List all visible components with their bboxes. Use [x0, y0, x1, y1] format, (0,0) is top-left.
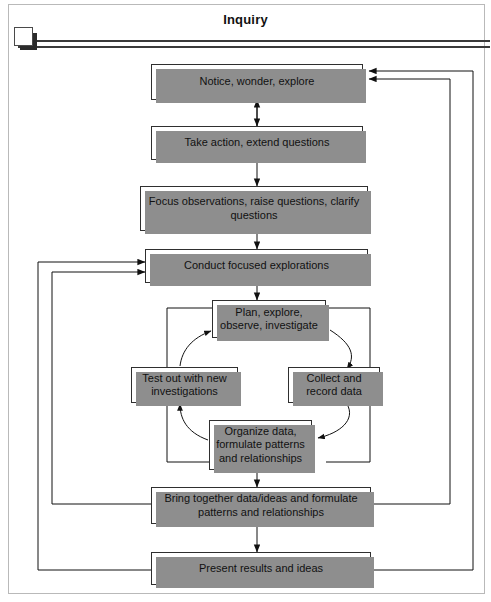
- node-notice-label: Notice, wonder, explore: [195, 75, 320, 88]
- node-collect-record-label: Collect and record data: [289, 372, 379, 399]
- node-focus-observations[interactable]: Focus observations, raise questions, cla…: [140, 186, 368, 231]
- node-present-results[interactable]: Present results and ideas: [151, 552, 371, 585]
- node-test-out-label: Test out with new investigations: [132, 372, 237, 399]
- node-conduct-explorations[interactable]: Conduct focused explorations: [145, 249, 368, 283]
- node-test-out[interactable]: Test out with new investigations: [131, 367, 238, 403]
- node-take-action-label: Take action, extend questions: [180, 136, 335, 149]
- node-plan-explore[interactable]: Plan, explore, observe, investigate: [212, 300, 326, 338]
- node-collect-record[interactable]: Collect and record data: [288, 367, 380, 403]
- node-organize-data-label: Organize data, formulate patterns and re…: [210, 425, 311, 465]
- node-plan-explore-label: Plan, explore, observe, investigate: [213, 306, 325, 333]
- node-bring-together-label: Bring together data/ideas and formulate …: [152, 492, 370, 519]
- node-conduct-explorations-label: Conduct focused explorations: [179, 259, 334, 272]
- node-notice[interactable]: Notice, wonder, explore: [151, 64, 363, 100]
- node-bring-together[interactable]: Bring together data/ideas and formulate …: [151, 487, 371, 524]
- node-present-results-label: Present results and ideas: [194, 562, 328, 575]
- node-focus-observations-label: Focus observations, raise questions, cla…: [141, 195, 367, 222]
- node-organize-data[interactable]: Organize data, formulate patterns and re…: [209, 420, 312, 470]
- inquiry-diagram: Inquiry: [0, 0, 491, 602]
- square-marker-icon: [14, 27, 33, 46]
- node-take-action[interactable]: Take action, extend questions: [151, 126, 363, 160]
